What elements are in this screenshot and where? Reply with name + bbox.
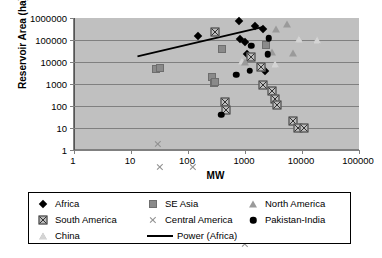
legend-marker-icon <box>247 198 259 210</box>
legend-item-pakistan-india[interactable]: Pakistan-India <box>247 212 325 228</box>
legend-marker-icon <box>37 198 49 210</box>
legend-marker-icon <box>37 214 49 226</box>
legend-marker-icon <box>247 214 259 226</box>
x-tick-mark <box>74 150 75 154</box>
y-tick-label: 1000000 <box>30 13 67 24</box>
chart-legend: AfricaSE AsiaNorth AmericaSouth AmericaC… <box>28 192 351 244</box>
x-tick-mark <box>302 150 303 154</box>
x-tick-mark <box>188 150 189 154</box>
x-tick-label: 1000 <box>233 155 254 166</box>
marker-glyph <box>39 233 47 240</box>
marker-glyph <box>149 200 157 208</box>
y-tick-label: 1 <box>62 145 67 156</box>
x-tick-mark <box>131 150 132 154</box>
legend-item-se-asia[interactable]: SE Asia <box>147 196 198 212</box>
marker-glyph <box>39 216 48 225</box>
marker-glyph <box>149 216 157 224</box>
y-tick-label: 1000 <box>46 79 67 90</box>
y-tick-label: 10 <box>56 123 67 134</box>
legend-marker-icon <box>37 230 49 242</box>
legend-marker-icon <box>147 198 159 210</box>
legend-item-north-america[interactable]: North America <box>247 196 325 212</box>
x-tick-mark <box>245 150 246 154</box>
marker-glyph <box>39 200 47 208</box>
legend-label: Pakistan-India <box>265 214 325 226</box>
legend-label: China <box>55 230 80 242</box>
x-tick-label: 10000 <box>288 155 314 166</box>
gridline <box>74 150 359 151</box>
legend-item-africa[interactable]: Africa <box>37 196 79 212</box>
x-tick-label: 1 <box>70 155 75 166</box>
y-tick-label: 100000 <box>35 35 67 46</box>
legend-label: Central America <box>165 214 233 226</box>
legend-item-central-america[interactable]: Central America <box>147 212 233 228</box>
legend-line-swatch <box>147 235 173 237</box>
scatter-chart: Reservoir Area (ha) 11010010001000010000… <box>0 0 382 258</box>
legend-item-china[interactable]: China <box>37 228 80 244</box>
plot-area <box>73 18 359 150</box>
x-tick-label: 100000 <box>342 155 374 166</box>
x-tick-label: 100 <box>179 155 195 166</box>
legend-label: SE Asia <box>165 198 198 210</box>
marker-glyph <box>250 217 257 224</box>
legend-label: Africa <box>55 198 79 210</box>
legend-item-south-america[interactable]: South America <box>37 212 117 228</box>
y-tick-label: 10000 <box>41 57 67 68</box>
legend-label: North America <box>265 198 325 210</box>
legend-label: South America <box>55 214 117 226</box>
x-axis-title: MW <box>73 170 358 181</box>
x-tick-mark <box>359 150 360 154</box>
trendline-power-africa <box>74 18 359 150</box>
legend-marker-icon <box>147 214 159 226</box>
marker-glyph <box>249 201 257 208</box>
legend-item-power-africa-[interactable]: Power (Africa) <box>147 228 237 244</box>
y-tick-label: 100 <box>51 101 67 112</box>
legend-label: Power (Africa) <box>177 230 237 242</box>
x-tick-label: 10 <box>125 155 136 166</box>
